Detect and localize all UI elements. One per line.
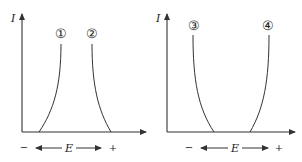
curve-4-label: ④ (262, 18, 274, 33)
curve-3-label: ③ (188, 18, 200, 33)
right-y-axis-label: I (155, 12, 161, 25)
left-minus-label: − (20, 142, 28, 153)
left-x-axis-label: E (64, 142, 73, 155)
curve-2 (92, 44, 111, 132)
curve-2-label: ② (86, 26, 98, 41)
left-plus-label: + (109, 142, 117, 153)
right-x-axis-label: E (230, 142, 239, 155)
curve-4 (250, 35, 269, 132)
right-plus-label: + (275, 142, 283, 153)
current-potential-diagram: I ① ② − E + I ③ ④ − E + (0, 0, 302, 162)
curve-1-label: ① (55, 26, 67, 41)
curve-1 (39, 44, 61, 132)
right-minus-label: − (185, 142, 193, 153)
curve-3 (193, 35, 214, 132)
left-panel: I ① ② − E + (10, 12, 146, 155)
left-y-axis-label: I (10, 12, 16, 25)
right-panel: I ③ ④ − E + (155, 12, 295, 155)
